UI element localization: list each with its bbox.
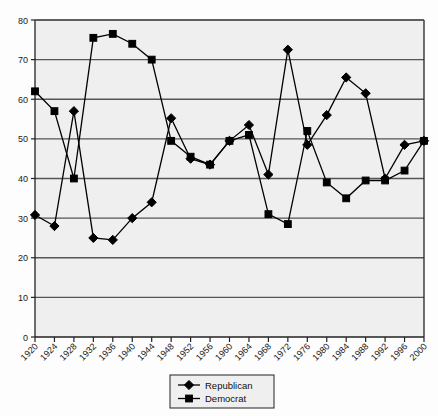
x-axis-tick-label: 1944 [135, 341, 156, 362]
x-axis-tick-label: 1992 [369, 341, 390, 362]
x-axis-tick-label: 1932 [77, 341, 98, 362]
x-axis-tick-label: 1936 [96, 341, 117, 362]
data-point [304, 128, 311, 135]
data-point [90, 34, 97, 41]
x-axis-tick-label: 1928 [58, 341, 79, 362]
x-axis-tick-label: 1948 [155, 341, 176, 362]
data-point [32, 88, 39, 95]
y-axis-tick-label: 60 [18, 95, 28, 105]
x-axis-tick-label: 1952 [174, 341, 195, 362]
x-axis-tick-label: 1996 [388, 341, 409, 362]
data-point [51, 108, 58, 115]
data-point [148, 56, 155, 63]
x-axis-tick-label: 2000 [408, 341, 429, 362]
legend-label-democrat: Democrat [205, 393, 247, 404]
data-point [382, 177, 389, 184]
x-axis-tick-label: 1980 [310, 341, 331, 362]
y-axis-tick-label: 80 [18, 16, 28, 26]
x-axis-tick-label: 1976 [291, 341, 312, 362]
data-point [187, 153, 194, 160]
data-point [265, 211, 272, 218]
chart-container: 0102030405060708019201924192819321936194… [0, 0, 438, 416]
y-axis-tick-label: 50 [18, 134, 28, 144]
x-axis: 1920192419281932193619401944194819521956… [19, 337, 429, 363]
data-point [401, 167, 408, 174]
legend-label-republican: Republican [205, 380, 253, 391]
y-axis-tick-label: 0 [23, 333, 28, 343]
legend-marker-democrat [186, 395, 193, 402]
data-point [71, 175, 78, 182]
x-axis-tick-label: 1984 [330, 341, 351, 362]
legend: RepublicanDemocrat [170, 375, 274, 408]
x-axis-tick-label: 1988 [349, 341, 370, 362]
data-point [207, 161, 214, 168]
x-axis-tick-label: 1972 [272, 341, 293, 362]
x-axis-tick-label: 1940 [116, 341, 137, 362]
data-point [109, 30, 116, 37]
y-axis-tick-label: 40 [18, 174, 28, 184]
y-axis-tick-label: 20 [18, 253, 28, 263]
x-axis-tick-label: 1968 [252, 341, 273, 362]
y-axis: 01020304050607080 [18, 16, 35, 343]
x-axis-tick-label: 1924 [38, 341, 59, 362]
data-point [226, 137, 233, 144]
data-point [343, 195, 350, 202]
data-point [362, 177, 369, 184]
x-axis-tick-label: 1964 [233, 341, 254, 362]
data-point [323, 179, 330, 186]
x-axis-tick-label: 1920 [19, 341, 40, 362]
y-axis-tick-label: 30 [18, 214, 28, 224]
data-point [129, 40, 136, 47]
data-point [168, 137, 175, 144]
y-axis-tick-label: 70 [18, 55, 28, 65]
line-chart: 0102030405060708019201924192819321936194… [0, 0, 438, 416]
y-axis-tick-label: 10 [18, 293, 28, 303]
data-point [284, 221, 291, 228]
data-point [421, 137, 428, 144]
x-axis-tick-label: 1960 [213, 341, 234, 362]
x-axis-tick-label: 1956 [194, 341, 215, 362]
data-point [246, 132, 253, 139]
